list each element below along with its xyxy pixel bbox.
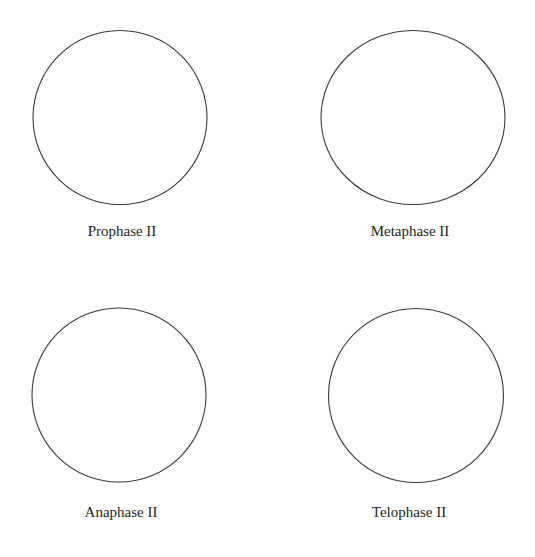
cell-outline-prophase-ii [33,31,207,205]
cell-outline-telophase-ii [329,309,504,483]
cell-outline-anaphase-ii [32,308,206,482]
cell-outline-metaphase-ii [321,31,505,205]
label-anaphase-ii: Anaphase II [85,505,158,520]
meiosis-ii-diagram [0,0,535,557]
label-prophase-ii: Prophase II [88,224,157,239]
label-telophase-ii: Telophase II [372,505,446,520]
label-metaphase-ii: Metaphase II [371,224,450,239]
